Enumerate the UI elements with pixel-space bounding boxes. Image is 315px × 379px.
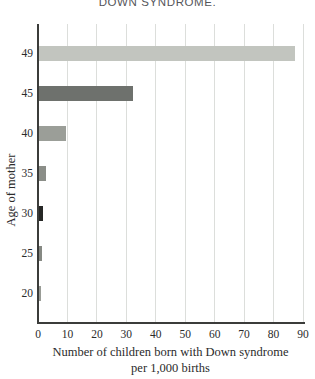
down-syndrome-bar-chart: DOWN SYNDROME. Age of mother Number of c… bbox=[0, 0, 315, 379]
y-tick-label: 49 bbox=[0, 46, 33, 60]
gridline-x-10 bbox=[67, 24, 68, 323]
y-tick-label: 20 bbox=[0, 286, 33, 300]
y-tick-label: 30 bbox=[0, 206, 33, 220]
y-tick-label: 25 bbox=[0, 246, 33, 260]
x-axis-title-line2: per 1,000 births bbox=[38, 360, 303, 376]
x-tick-label: 40 bbox=[150, 328, 162, 341]
bar-age-45 bbox=[39, 86, 133, 101]
gridline-x-30 bbox=[126, 24, 127, 323]
x-axis-title-line1: Number of children born with Down syndro… bbox=[38, 344, 303, 360]
bar-age-30 bbox=[39, 206, 43, 221]
gridline-x-70 bbox=[244, 24, 245, 323]
gridline-x-50 bbox=[185, 24, 186, 323]
x-tick-label: 20 bbox=[91, 328, 103, 341]
x-tick-label: 30 bbox=[121, 328, 133, 341]
gridline-x-20 bbox=[96, 24, 97, 323]
gridline-x-60 bbox=[214, 24, 215, 323]
x-tick-label: 90 bbox=[297, 328, 309, 341]
chart-title: DOWN SYNDROME. bbox=[0, 0, 315, 8]
x-tick-label: 10 bbox=[62, 328, 74, 341]
x-tick-label: 50 bbox=[179, 328, 191, 341]
bar-age-35 bbox=[39, 166, 46, 181]
y-axis-line bbox=[37, 24, 39, 323]
plot-area bbox=[38, 24, 303, 323]
bar-age-49 bbox=[39, 46, 295, 61]
x-tick-label: 70 bbox=[238, 328, 250, 341]
x-axis-title: Number of children born with Down syndro… bbox=[38, 344, 303, 376]
bar-age-25 bbox=[39, 246, 42, 261]
x-axis-line bbox=[37, 322, 305, 324]
gridline-x-40 bbox=[155, 24, 156, 323]
x-tick-label: 80 bbox=[268, 328, 280, 341]
y-tick-label: 45 bbox=[0, 86, 33, 100]
y-tick-label: 40 bbox=[0, 126, 33, 140]
gridline-x-90 bbox=[303, 24, 304, 323]
y-tick-label: 35 bbox=[0, 166, 33, 180]
x-tick-label: 0 bbox=[35, 328, 41, 341]
x-tick-label: 60 bbox=[209, 328, 221, 341]
bar-age-40 bbox=[39, 126, 66, 141]
bar-age-20 bbox=[39, 286, 41, 301]
gridline-x-80 bbox=[273, 24, 274, 323]
